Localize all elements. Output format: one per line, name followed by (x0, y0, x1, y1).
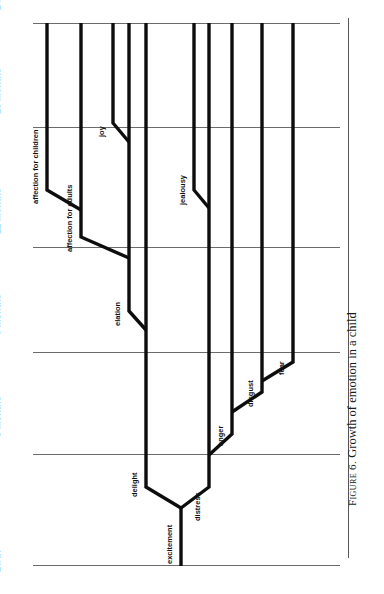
branch-delight (146, 23, 181, 508)
node-label-anger: anger (216, 426, 225, 446)
branch-disgust (232, 23, 262, 412)
node-label-joy: joy (97, 126, 106, 137)
axis-label-birth: Birth (0, 550, 2, 572)
node-label-delight: delight (130, 472, 139, 497)
node-label-jealousy: jealousy (178, 175, 187, 205)
node-label-elation: elation (113, 302, 122, 326)
emotion-tree (47, 23, 293, 566)
axis-label-15-months: 15 Months (0, 68, 2, 114)
branch-affection-for-children (47, 23, 81, 210)
node-label-affection-for-children: affection for children (31, 129, 40, 204)
branch-joy (113, 23, 129, 142)
branch-affection-for-adults (81, 23, 129, 258)
node-label-affection-for-adults: affection for adults (65, 184, 74, 252)
axis-label-3-months: 3 Months (0, 396, 2, 437)
branch-fear (262, 23, 293, 381)
branch-jealousy (194, 23, 209, 208)
caption-title: Growth of emotion in a child (345, 312, 359, 457)
branch-anger (209, 23, 232, 455)
node-label-disgust: disgust (246, 380, 255, 407)
node-label-distress: distress (193, 492, 202, 521)
axis-label-24-months: 24 Months (0, 0, 2, 10)
figure-caption: Figure 6. Growth of emotion in a child (346, 0, 380, 594)
emotion-growth-diagram (0, 0, 384, 594)
figure-container: 24 Months 15 Months 12 Months 6 Months 3… (0, 0, 384, 594)
node-label-fear: fear (277, 361, 286, 375)
caption-line: Figure 6. Growth of emotion in a child (345, 312, 360, 506)
node-label-excitement: excitement (165, 525, 174, 564)
caption-figure-number: Figure 6. (346, 461, 358, 506)
axis-label-12-months: 12 Months (0, 188, 2, 234)
branch-elation (129, 23, 146, 330)
axis-label-6-months: 6 Months (0, 294, 2, 335)
